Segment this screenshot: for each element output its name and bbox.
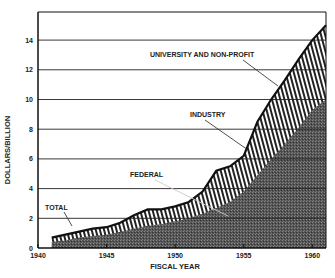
label-federal: FEDERAL <box>130 171 164 178</box>
label-industry: INDUSTRY <box>190 111 226 118</box>
label-university: UNIVERSITY AND NON-PROFIT <box>150 51 255 58</box>
x-tick-label: 1955 <box>236 252 252 259</box>
x-tick-label: 1940 <box>30 252 46 259</box>
y-tick-label: 0 <box>29 245 33 252</box>
x-tick-label: 1960 <box>304 252 320 259</box>
plot-area <box>52 25 326 248</box>
y-tick-label: 8 <box>29 126 33 133</box>
label-total: TOTAL <box>45 204 68 211</box>
y-tick-label: 10 <box>25 96 33 103</box>
x-axis-label: FISCAL YEAR <box>150 262 200 271</box>
x-tick-label: 1945 <box>99 252 115 259</box>
x-tick-label: 1950 <box>167 252 183 259</box>
y-tick-label: 6 <box>29 155 33 162</box>
research-funding-chart: 0246810121419401945195019551960 DOLLARS/… <box>0 0 335 278</box>
y-tick-label: 4 <box>29 185 33 192</box>
y-tick-label: 14 <box>25 37 33 44</box>
y-tick-label: 2 <box>29 215 33 222</box>
y-axis-label: DOLLARS/BILLION <box>3 116 12 184</box>
y-tick-label: 12 <box>25 66 33 73</box>
